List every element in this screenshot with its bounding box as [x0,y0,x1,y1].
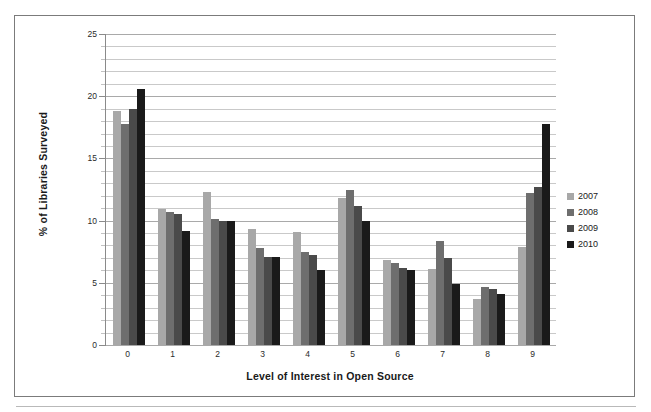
bar [473,299,481,345]
x-tick-label: 5 [333,349,373,359]
x-tick-label: 7 [423,349,463,359]
bar [399,268,407,345]
bar [121,124,129,345]
y-axis-title: % of Libraries Surveyed [37,54,49,294]
x-tick-label: 2 [198,349,238,359]
bar [452,284,460,345]
legend-label: 2009 [578,223,598,233]
bars-layer [106,34,556,345]
bar [158,209,166,345]
legend-swatch-icon [567,241,574,248]
bar [309,255,317,345]
y-minor-tick [101,183,105,184]
y-minor-tick [101,71,105,72]
bar [428,269,436,345]
y-minor-tick [101,121,105,122]
bar [272,257,280,345]
bar [137,89,145,345]
bar [542,124,550,345]
y-major-tick [99,158,105,159]
x-tick-label: 0 [108,349,148,359]
bar-group [196,34,241,345]
bar [293,232,301,345]
y-major-tick [99,283,105,284]
bar [166,212,174,345]
bar [338,198,346,345]
y-tick-label: 0 [71,340,97,350]
bar [248,229,256,345]
y-minor-tick [101,208,105,209]
x-tick-label: 4 [288,349,328,359]
y-minor-tick [101,320,105,321]
chart-legend: 2007200820092010 [567,188,631,252]
y-minor-tick [101,333,105,334]
bar [346,190,354,346]
bar-group [151,34,196,345]
bar-group [106,34,151,345]
bar [227,221,235,345]
bar-group [376,34,421,345]
y-tick-label: 10 [71,216,97,226]
bar-group [286,34,331,345]
legend-label: 2007 [578,191,598,201]
bar [211,219,219,345]
y-tick-label: 15 [71,153,97,163]
bar [354,206,362,345]
y-minor-tick [101,196,105,197]
bar [264,257,272,345]
y-major-tick [99,34,105,35]
bar [383,260,391,345]
bar-group [331,34,376,345]
bar-group [466,34,511,345]
x-tick-label: 3 [243,349,283,359]
y-minor-tick [101,295,105,296]
gridline-major [106,345,556,346]
legend-item: 2007 [567,188,631,204]
bar [436,241,444,345]
y-minor-tick [101,270,105,271]
bar-group [241,34,286,345]
bar [534,187,542,345]
bar [113,111,121,345]
bar-chart: % of Libraries Surveyed 0510152025 01234… [15,16,636,398]
legend-item: 2008 [567,204,631,220]
y-tick-label: 5 [71,278,97,288]
y-minor-tick [101,109,105,110]
bar [362,221,370,345]
bar [219,221,227,345]
bar-group [511,34,556,345]
bar-group [421,34,466,345]
bar [407,270,415,345]
y-minor-tick [101,171,105,172]
legend-swatch-icon [567,209,574,216]
bar [203,192,211,345]
bar [497,294,505,345]
y-tick-label: 25 [71,29,97,39]
y-minor-tick [101,46,105,47]
y-minor-tick [101,134,105,135]
legend-item: 2009 [567,220,631,236]
page-divider [16,406,636,407]
x-tick-label: 6 [378,349,418,359]
bar [256,248,264,345]
y-tick-label: 20 [71,91,97,101]
y-minor-tick [101,245,105,246]
y-major-tick [99,345,105,346]
bar [526,193,534,345]
x-axis-title: Level of Interest in Open Source [105,370,555,382]
legend-item: 2010 [567,236,631,252]
bar [444,258,452,345]
bar [317,270,325,345]
y-minor-tick [101,308,105,309]
x-tick-label: 1 [153,349,193,359]
y-minor-tick [101,258,105,259]
y-minor-tick [101,146,105,147]
figure-frame: % of Libraries Surveyed 0510152025 01234… [14,15,635,397]
y-minor-tick [101,84,105,85]
y-axis-tick-labels: 0510152025 [71,16,97,398]
bar [391,263,399,345]
x-tick-label: 8 [468,349,508,359]
x-axis-tick-labels: 0123456789 [105,349,555,365]
legend-label: 2008 [578,207,598,217]
plot-area [105,34,556,346]
